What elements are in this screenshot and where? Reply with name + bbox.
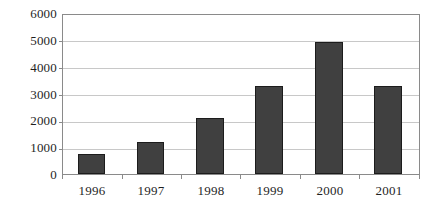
bar-2001 — [374, 86, 402, 174]
bar-chart: 6000 5000 4000 3000 2000 1000 0 — [0, 0, 443, 219]
bar-2000 — [315, 42, 343, 174]
y-tickmark — [59, 149, 63, 150]
y-axis: 6000 5000 4000 3000 2000 1000 0 — [0, 14, 57, 175]
x-tick-label-2001: 2001 — [359, 183, 419, 198]
bar-1997 — [137, 142, 164, 174]
y-tickmark — [59, 68, 63, 69]
x-tickmark — [62, 175, 63, 179]
x-tick-label-1996: 1996 — [62, 183, 122, 198]
y-tick-label: 0 — [5, 168, 57, 181]
y-tick-label: 5000 — [5, 34, 57, 47]
y-tick-label: 4000 — [5, 61, 57, 74]
x-tickmark — [419, 175, 420, 179]
x-axis: 1996 1997 1998 1999 2000 2001 — [62, 183, 420, 205]
bar-1999 — [255, 86, 283, 174]
bar-1998 — [196, 118, 224, 174]
gridline-4000 — [63, 68, 419, 69]
y-tickmark — [59, 95, 63, 96]
gridline-5000 — [63, 41, 419, 42]
y-tick-label: 6000 — [5, 7, 57, 20]
x-tickmark — [240, 175, 241, 179]
gridline-2000 — [63, 122, 419, 123]
gridline-1000 — [63, 149, 419, 150]
y-tick-label: 2000 — [5, 114, 57, 127]
y-tick-label: 3000 — [5, 88, 57, 101]
y-tick-label: 1000 — [5, 141, 57, 154]
x-tick-label-1997: 1997 — [121, 183, 181, 198]
plot-area — [62, 14, 420, 175]
x-tickmark — [122, 175, 123, 179]
x-tick-label-1999: 1999 — [240, 183, 300, 198]
bar-1996 — [78, 154, 105, 174]
x-tickmark — [359, 175, 360, 179]
x-tick-label-1998: 1998 — [181, 183, 241, 198]
x-tick-label-2000: 2000 — [300, 183, 360, 198]
x-tickmark — [181, 175, 182, 179]
y-tickmark — [59, 122, 63, 123]
y-tickmark — [59, 41, 63, 42]
gridline-3000 — [63, 95, 419, 96]
x-tickmark — [300, 175, 301, 179]
